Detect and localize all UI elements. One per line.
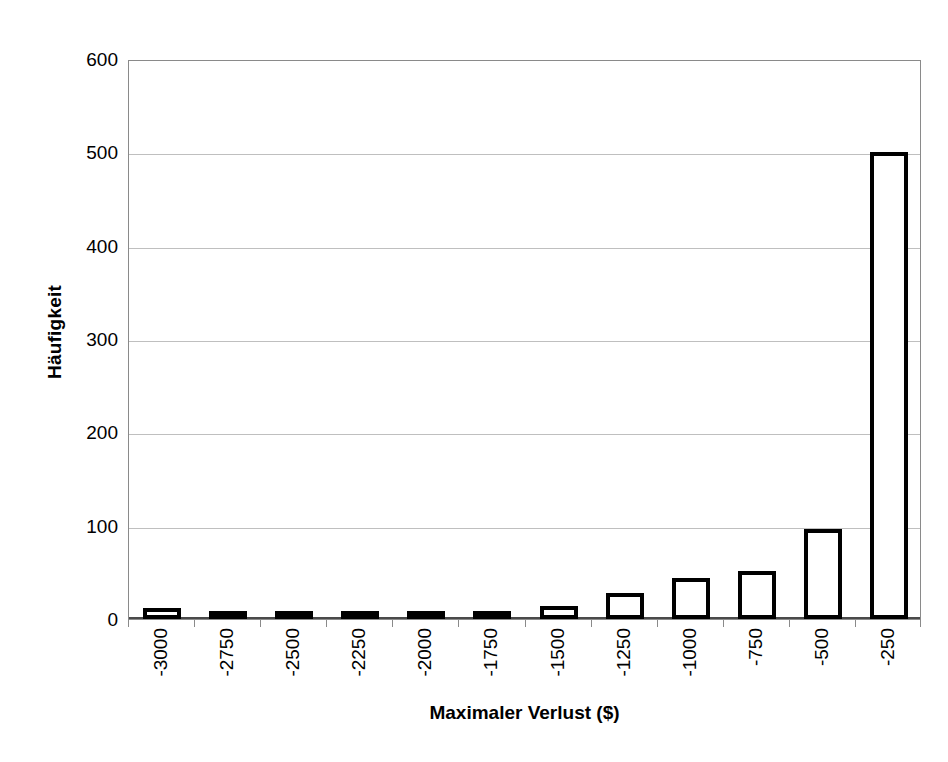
- bar[interactable]: [540, 606, 578, 619]
- x-tickmark: [260, 620, 261, 627]
- x-axis-tick-labels: -3000-2750-2500-2250-2000-1750-1500-1250…: [128, 628, 921, 700]
- bar-slot: [195, 61, 261, 619]
- y-tick-label: 100: [86, 516, 118, 538]
- x-tickmark: [657, 620, 658, 627]
- x-tickmark: [326, 620, 327, 627]
- x-label-slot: -1250: [591, 628, 657, 700]
- y-axis-title: Häufigkeit: [44, 232, 66, 432]
- x-label-slot: -3000: [128, 628, 194, 700]
- x-tick-label: -500: [811, 628, 833, 666]
- bar-slot: [129, 61, 195, 619]
- x-tickmark: [525, 620, 526, 627]
- x-tick-label: -1000: [679, 628, 701, 677]
- x-tickmark: [789, 620, 790, 627]
- bar-slot: [658, 61, 724, 619]
- y-tick-label: 500: [86, 142, 118, 164]
- bar-slot: [526, 61, 592, 619]
- x-label-slot: -2000: [392, 628, 458, 700]
- bar[interactable]: [738, 571, 776, 619]
- bar[interactable]: [870, 152, 908, 619]
- bar[interactable]: [209, 611, 247, 619]
- y-axis-title-text: Häufigkeit: [44, 285, 66, 379]
- x-tick-label: -250: [877, 628, 899, 666]
- bar[interactable]: [672, 578, 710, 619]
- bar[interactable]: [606, 593, 644, 619]
- bar-slot: [327, 61, 393, 619]
- x-tickmark: [591, 620, 592, 627]
- x-tickmark: [458, 620, 459, 627]
- bar-slot: [459, 61, 525, 619]
- bar[interactable]: [341, 611, 379, 619]
- bar[interactable]: [407, 611, 445, 619]
- x-label-slot: -2250: [326, 628, 392, 700]
- x-label-slot: -1500: [525, 628, 591, 700]
- x-tick-label: -3000: [150, 628, 172, 677]
- bar-slot: [856, 61, 922, 619]
- x-tickmark: [194, 620, 195, 627]
- x-label-slot: -750: [723, 628, 789, 700]
- bar[interactable]: [473, 611, 511, 619]
- y-tick-label: 0: [107, 609, 118, 631]
- x-tickmark: [855, 620, 856, 627]
- x-tick-label: -1500: [547, 628, 569, 677]
- bar-slot: [790, 61, 856, 619]
- x-tickmark: [128, 620, 129, 627]
- x-tick-label: -2250: [348, 628, 370, 677]
- bar[interactable]: [275, 611, 313, 619]
- x-axis-tickmarks: [128, 620, 921, 627]
- bar-slot: [592, 61, 658, 619]
- x-tickmark: [392, 620, 393, 627]
- histogram-chart: Häufigkeit 0100200300400500600 -3000-275…: [0, 0, 948, 762]
- x-tickmark: [723, 620, 724, 627]
- y-tick-label: 200: [86, 422, 118, 444]
- bar-slot: [261, 61, 327, 619]
- y-axis-tick-labels: 0100200300400500600: [72, 60, 126, 620]
- bars-layer: [129, 61, 920, 619]
- y-tick-label: 300: [86, 329, 118, 351]
- x-tick-label: -2000: [414, 628, 436, 677]
- bar-slot: [393, 61, 459, 619]
- bar[interactable]: [143, 608, 181, 619]
- plot-area: [128, 60, 921, 620]
- bar-slot: [724, 61, 790, 619]
- x-label-slot: -2500: [260, 628, 326, 700]
- x-label-slot: -1750: [458, 628, 524, 700]
- y-tick-label: 600: [86, 49, 118, 71]
- x-axis-title: Maximaler Verlust ($): [128, 702, 921, 724]
- x-label-slot: -2750: [194, 628, 260, 700]
- x-tick-label: -2500: [282, 628, 304, 677]
- x-tickmark: [920, 620, 921, 627]
- x-tick-label: -1250: [613, 628, 635, 677]
- x-tick-label: -2750: [216, 628, 238, 677]
- bar[interactable]: [804, 529, 842, 619]
- x-tick-label: -1750: [480, 628, 502, 677]
- x-label-slot: -1000: [657, 628, 723, 700]
- x-label-slot: -500: [789, 628, 855, 700]
- x-tick-label: -750: [745, 628, 767, 666]
- x-label-slot: -250: [855, 628, 921, 700]
- y-tick-label: 400: [86, 236, 118, 258]
